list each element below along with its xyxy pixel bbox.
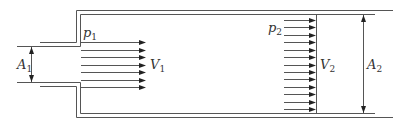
velocity-arrowhead	[309, 48, 316, 53]
velocity-arrowhead	[139, 85, 146, 90]
velocity-arrowhead	[309, 25, 316, 30]
velocity-arrowhead	[139, 40, 146, 45]
velocity-arrowhead	[139, 78, 146, 83]
velocity-arrowhead	[309, 107, 316, 112]
velocity-arrowhead	[309, 55, 316, 60]
a1-arrowhead-down	[29, 75, 34, 82]
p2-label: p2	[268, 21, 282, 37]
velocity-arrowhead	[309, 63, 316, 68]
a1-label: A1	[17, 58, 32, 74]
a1-arrowhead-up	[29, 47, 34, 54]
inlet-velocity-arrows	[81, 40, 146, 90]
sudden-expansion-diagram: p1 V1 A1 p2 V2 A2	[0, 0, 393, 127]
velocity-arrowhead	[309, 85, 316, 90]
velocity-arrowhead	[309, 70, 316, 75]
velocity-arrowhead	[309, 92, 316, 97]
a2-label: A2	[367, 58, 382, 74]
velocity-arrowhead	[309, 33, 316, 38]
a2-arrowhead-up	[361, 15, 366, 22]
velocity-arrowhead	[309, 40, 316, 45]
velocity-arrowhead	[139, 70, 146, 75]
v2-label: V2	[320, 58, 335, 74]
p1-label: p1	[83, 26, 97, 42]
velocity-arrowhead	[139, 48, 146, 53]
outer-wall-bottom	[40, 87, 393, 118]
a2-arrowhead-down	[361, 106, 366, 113]
inner-wall-top	[17, 15, 375, 47]
v1-label: V1	[150, 58, 165, 74]
velocity-arrowhead	[139, 63, 146, 68]
velocity-arrowhead	[309, 18, 316, 23]
inner-wall-bottom	[17, 83, 375, 114]
velocity-arrowhead	[139, 55, 146, 60]
velocity-arrowhead	[309, 100, 316, 105]
velocity-arrowhead	[309, 77, 316, 82]
outlet-velocity-arrows	[284, 18, 316, 112]
